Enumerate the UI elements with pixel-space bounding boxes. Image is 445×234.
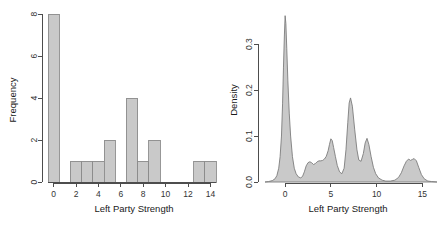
density-x-tick-label: 5: [329, 189, 334, 199]
density-y-axis-title: Density: [228, 84, 239, 116]
histogram-x-tick-label: 12: [183, 189, 193, 199]
histogram-panel: 0246810121402468 Frequency Left Party St…: [0, 0, 223, 234]
histogram-bar: [149, 140, 160, 182]
histogram-x-tick-label: 8: [141, 189, 146, 199]
density-y-tick-label: 0.0: [244, 176, 254, 188]
histogram-bar: [93, 161, 104, 182]
density-y-tick-label: 0.3: [244, 38, 254, 50]
histogram-x-tick-label: 4: [96, 189, 101, 199]
density-x-tick-label: 0: [283, 189, 288, 199]
density-y-tick-label: 0.2: [244, 84, 254, 96]
density-curve-area: [265, 16, 437, 182]
density-x-tick-label: 10: [372, 189, 382, 199]
histogram-x-axis-title: Left Party Strength: [94, 203, 173, 214]
histogram-bars-group: [48, 14, 216, 182]
density-y-tick-label: 0.1: [244, 130, 254, 142]
histogram-x-tick-label: 10: [161, 189, 171, 199]
histogram-y-tick-label: 0: [29, 179, 39, 184]
histogram-bar: [104, 140, 115, 182]
histogram-bar: [82, 161, 93, 182]
density-x-tick-label: 15: [418, 189, 428, 199]
figure-container: 0246810121402468 Frequency Left Party St…: [0, 0, 445, 234]
histogram-y-tick-label: 4: [29, 95, 39, 100]
histogram-y-axis-title: Frequency: [7, 77, 18, 122]
histogram-svg: 0246810121402468 Frequency Left Party St…: [0, 0, 223, 234]
histogram-bar: [126, 98, 137, 182]
histogram-bar: [205, 161, 216, 182]
histogram-x-tick-label: 6: [118, 189, 123, 199]
histogram-bar: [194, 161, 205, 182]
histogram-x-tick-label: 2: [74, 189, 79, 199]
density-panel: 0510150.00.10.20.3 Density Left Party St…: [223, 0, 445, 234]
histogram-y-tick-label: 6: [29, 53, 39, 58]
histogram-y-tick-label: 8: [29, 11, 39, 16]
histogram-x-tick-label: 14: [206, 189, 216, 199]
histogram-x-tick-label: 0: [51, 189, 56, 199]
histogram-bar: [48, 14, 59, 182]
histogram-y-tick-label: 2: [29, 137, 39, 142]
density-x-axis-title: Left Party Strength: [308, 203, 387, 214]
density-svg: 0510150.00.10.20.3 Density Left Party St…: [223, 0, 445, 234]
histogram-bar: [70, 161, 81, 182]
histogram-bar: [138, 161, 149, 182]
